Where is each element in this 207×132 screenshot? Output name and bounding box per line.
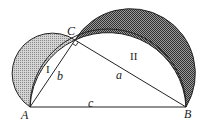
lunes-diagram: A B C a b c I II xyxy=(0,0,207,132)
side-label-b: b xyxy=(57,69,63,83)
point-label-c: C xyxy=(67,24,76,38)
point-label-a: A xyxy=(20,108,29,122)
side-label-a: a xyxy=(116,68,122,82)
region-label-1: I xyxy=(46,63,50,75)
side-label-c: c xyxy=(88,96,94,110)
lune-1-region xyxy=(12,33,75,107)
point-label-b: B xyxy=(184,107,192,121)
region-label-2: II xyxy=(130,50,138,62)
